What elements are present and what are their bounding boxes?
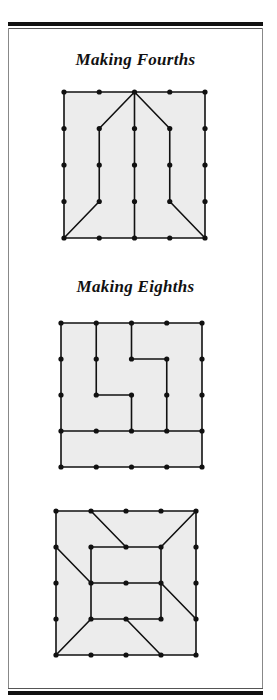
peg-dot bbox=[193, 616, 198, 621]
peg-dot bbox=[129, 320, 134, 325]
peg-dot bbox=[123, 616, 128, 621]
peg-dot bbox=[167, 199, 172, 204]
peg-dot bbox=[94, 392, 99, 397]
peg-dot bbox=[164, 428, 169, 433]
peg-dot bbox=[193, 580, 198, 585]
peg-dot bbox=[97, 199, 102, 204]
eighths-geoboard-2 bbox=[53, 508, 198, 657]
peg-dot bbox=[167, 162, 172, 167]
peg-dot bbox=[158, 652, 163, 657]
peg-dot bbox=[53, 508, 58, 513]
peg-dot bbox=[58, 464, 63, 469]
peg-dot bbox=[164, 320, 169, 325]
peg-dot bbox=[158, 580, 163, 585]
eighths-geoboard-1 bbox=[58, 320, 204, 469]
peg-dot bbox=[164, 356, 169, 361]
peg-dot bbox=[88, 652, 93, 657]
peg-dot bbox=[94, 356, 99, 361]
peg-dot bbox=[193, 544, 198, 549]
peg-dot bbox=[97, 235, 102, 240]
peg-dot bbox=[53, 580, 58, 585]
peg-dot bbox=[88, 508, 93, 513]
peg-dot bbox=[94, 320, 99, 325]
peg-dot bbox=[61, 199, 66, 204]
peg-dot bbox=[167, 235, 172, 240]
peg-dot bbox=[129, 464, 134, 469]
peg-dot bbox=[61, 126, 66, 131]
peg-dot bbox=[129, 428, 134, 433]
peg-dot bbox=[199, 464, 204, 469]
peg-dot bbox=[202, 126, 207, 131]
peg-dot bbox=[167, 126, 172, 131]
peg-dot bbox=[94, 464, 99, 469]
peg-dot bbox=[123, 580, 128, 585]
peg-dot bbox=[97, 162, 102, 167]
peg-dot bbox=[202, 235, 207, 240]
peg-dot bbox=[129, 356, 134, 361]
peg-dot bbox=[61, 162, 66, 167]
peg-dot bbox=[132, 235, 137, 240]
peg-dot bbox=[53, 544, 58, 549]
peg-dot bbox=[193, 508, 198, 513]
peg-dot bbox=[202, 162, 207, 167]
peg-dot bbox=[61, 235, 66, 240]
peg-dot bbox=[199, 356, 204, 361]
peg-dot bbox=[88, 580, 93, 585]
peg-dot bbox=[202, 89, 207, 94]
peg-dot bbox=[132, 126, 137, 131]
peg-dot bbox=[53, 616, 58, 621]
peg-dot bbox=[123, 652, 128, 657]
peg-dot bbox=[123, 544, 128, 549]
peg-dot bbox=[88, 616, 93, 621]
peg-dot bbox=[123, 508, 128, 513]
peg-dot bbox=[199, 428, 204, 433]
peg-dot bbox=[53, 652, 58, 657]
peg-dot bbox=[129, 392, 134, 397]
peg-dot bbox=[88, 544, 93, 549]
peg-dot bbox=[158, 544, 163, 549]
peg-dot bbox=[58, 356, 63, 361]
peg-dot bbox=[167, 89, 172, 94]
peg-dot bbox=[97, 126, 102, 131]
peg-dot bbox=[58, 428, 63, 433]
peg-dot bbox=[193, 652, 198, 657]
peg-dot bbox=[132, 89, 137, 94]
peg-dot bbox=[199, 320, 204, 325]
geoboard-diagrams bbox=[0, 0, 277, 700]
peg-dot bbox=[58, 392, 63, 397]
peg-dot bbox=[97, 89, 102, 94]
peg-dot bbox=[158, 508, 163, 513]
peg-dot bbox=[158, 616, 163, 621]
fourths-geoboard bbox=[61, 89, 207, 240]
peg-dot bbox=[132, 162, 137, 167]
peg-dot bbox=[164, 464, 169, 469]
peg-dot bbox=[94, 428, 99, 433]
peg-dot bbox=[58, 320, 63, 325]
peg-dot bbox=[61, 89, 66, 94]
peg-dot bbox=[132, 199, 137, 204]
peg-dot bbox=[202, 199, 207, 204]
peg-dot bbox=[199, 392, 204, 397]
peg-dot bbox=[164, 392, 169, 397]
